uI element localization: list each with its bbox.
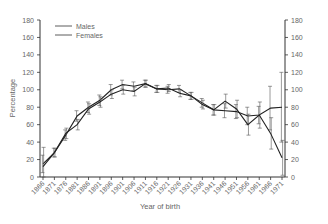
y-tick-label-left: 60 — [26, 121, 34, 128]
legend: Males Females — [55, 23, 103, 39]
series-line-females — [43, 84, 282, 167]
y-tick-label-left: 100 — [22, 86, 34, 93]
y-tick-label-right: 180 — [291, 17, 303, 24]
y-tick-label-right: 60 — [291, 121, 299, 128]
y-tick-label-left: 120 — [22, 69, 34, 76]
y-tick-label-left: 0 — [30, 174, 34, 181]
line-chart: 0020204040606080801001001201201401401601… — [0, 0, 328, 224]
legend-label-females: Females — [76, 32, 103, 39]
y-tick-label-left: 160 — [22, 34, 34, 41]
legend-label-males: Males — [76, 23, 95, 30]
y-tick-label-left: 20 — [26, 156, 34, 163]
y-axis-title: Percentage — [8, 79, 17, 117]
axes: 0020204040606080801001001201201401401601… — [22, 17, 302, 196]
y-tick-label-right: 40 — [291, 139, 299, 146]
y-tick-label-left: 140 — [22, 51, 34, 58]
y-tick-label-left: 80 — [26, 104, 34, 111]
x-axis-title: Year of birth — [140, 202, 180, 211]
y-tick-label-right: 0 — [291, 174, 295, 181]
series-line-males — [43, 84, 282, 164]
y-tick-label-right: 100 — [291, 86, 303, 93]
series-layer — [40, 72, 284, 177]
y-tick-label-right: 120 — [291, 69, 303, 76]
y-tick-label-right: 140 — [291, 51, 303, 58]
y-tick-label-right: 160 — [291, 34, 303, 41]
y-tick-label-right: 20 — [291, 156, 299, 163]
title-strip — [0, 0, 328, 4]
x-tick-label: 1971 — [269, 180, 285, 196]
series-females — [42, 80, 285, 177]
y-tick-label-left: 40 — [26, 139, 34, 146]
y-tick-label-right: 80 — [291, 104, 299, 111]
y-tick-label-left: 180 — [22, 17, 34, 24]
